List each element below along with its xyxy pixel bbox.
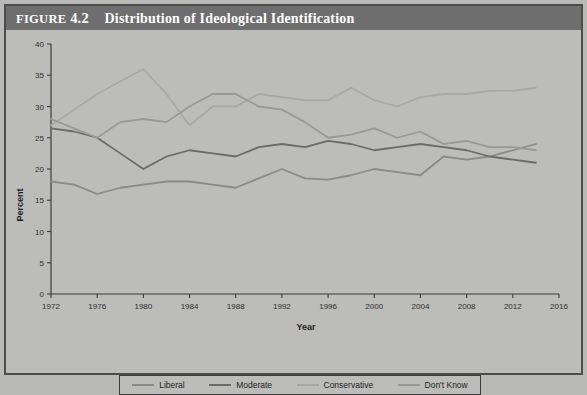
legend-label: Liberal bbox=[159, 380, 185, 390]
x-axis-title: Year bbox=[296, 322, 316, 332]
x-tick-label: 1988 bbox=[227, 302, 245, 311]
legend-item-conservative[interactable]: Conservative bbox=[295, 380, 376, 390]
y-tick-label: 25 bbox=[35, 134, 44, 143]
x-tick-label: 1976 bbox=[88, 302, 106, 311]
x-tick-label: 2000 bbox=[365, 302, 383, 311]
y-tick-label: 20 bbox=[35, 165, 44, 174]
y-tick-label: 0 bbox=[40, 290, 45, 299]
legend-swatch-icon bbox=[297, 384, 319, 386]
legend-label: Conservative bbox=[324, 380, 374, 390]
y-axis-title: Percent bbox=[15, 188, 25, 221]
x-axis: 1972197619801984198819921996200020042008… bbox=[42, 294, 568, 311]
x-tick-label: 2008 bbox=[458, 302, 476, 311]
figure-title-bar: FIGURE 4.2 Distribution of Ideological I… bbox=[6, 6, 581, 30]
plot-area: 0510152025303540 19721976198019841988199… bbox=[6, 30, 581, 340]
figure-caption: Distribution of Ideological Identificati… bbox=[105, 11, 355, 26]
series-line-don-t-know bbox=[51, 94, 536, 150]
x-tick-label: 2004 bbox=[412, 302, 430, 311]
legend-swatch-icon bbox=[132, 384, 154, 386]
x-tick-label: 1984 bbox=[181, 302, 199, 311]
series-lines bbox=[51, 69, 536, 194]
y-axis: 0510152025303540 bbox=[35, 40, 51, 299]
legend-label: Don't Know bbox=[425, 380, 468, 390]
figure-number: 4.2 bbox=[70, 10, 89, 26]
series-line-moderate bbox=[51, 128, 536, 169]
x-tick-label: 1992 bbox=[273, 302, 291, 311]
figure-title: FIGURE 4.2 Distribution of Ideological I… bbox=[6, 10, 354, 27]
y-tick-label: 5 bbox=[40, 259, 45, 268]
legend-swatch-icon bbox=[209, 384, 231, 386]
x-tick-label: 2016 bbox=[550, 302, 568, 311]
legend-item-don-t-know[interactable]: Don't Know bbox=[396, 380, 470, 390]
legend-item-liberal[interactable]: Liberal bbox=[130, 380, 187, 390]
series-line-liberal bbox=[51, 144, 536, 194]
y-tick-label: 30 bbox=[35, 103, 44, 112]
x-tick-label: 1980 bbox=[134, 302, 152, 311]
x-tick-label: 2012 bbox=[504, 302, 522, 311]
y-tick-label: 15 bbox=[35, 196, 44, 205]
legend-item-moderate[interactable]: Moderate bbox=[207, 380, 274, 390]
y-tick-label: 10 bbox=[35, 228, 44, 237]
x-tick-label: 1972 bbox=[42, 302, 60, 311]
line-chart: 0510152025303540 19721976198019841988199… bbox=[6, 30, 581, 340]
chart-legend: LiberalModerateConservativeDon't Know bbox=[119, 375, 481, 395]
y-tick-label: 35 bbox=[35, 71, 44, 80]
y-tick-label: 40 bbox=[35, 40, 44, 49]
x-tick-label: 1996 bbox=[319, 302, 337, 311]
figure-label: FIGURE bbox=[16, 12, 66, 26]
legend-label: Moderate bbox=[236, 380, 272, 390]
legend-swatch-icon bbox=[398, 384, 420, 386]
chart-panel: 0510152025303540 19721976198019841988199… bbox=[6, 30, 581, 373]
